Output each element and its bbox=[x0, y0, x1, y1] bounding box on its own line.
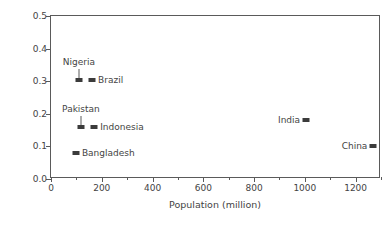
data-point-marker[interactable] bbox=[77, 125, 84, 129]
x-minor-tick-mark bbox=[330, 177, 331, 180]
x-tick-mark bbox=[102, 177, 103, 182]
x-minor-tick-mark bbox=[381, 177, 382, 180]
x-tick-label: 400 bbox=[144, 184, 161, 193]
data-point-label: Bangladesh bbox=[82, 148, 135, 157]
x-tick-mark bbox=[203, 177, 204, 182]
data-point-label: Brazil bbox=[98, 75, 123, 84]
x-tick-mark bbox=[153, 177, 154, 182]
x-tick-label: 0 bbox=[48, 184, 54, 193]
scatter-plot-figure: Farm land (ha/capita) Population (millio… bbox=[0, 0, 391, 226]
plot-area: 0.00.10.20.30.40.5 020040060080010001200… bbox=[50, 15, 380, 178]
x-tick-label: 1200 bbox=[344, 184, 367, 193]
x-minor-tick-mark bbox=[178, 177, 179, 180]
data-point-marker[interactable] bbox=[75, 78, 82, 82]
data-point-label: Pakistan bbox=[62, 105, 100, 114]
data-point-marker[interactable] bbox=[91, 125, 98, 129]
data-point-marker[interactable] bbox=[370, 144, 377, 148]
y-tick-label: 0.5 bbox=[33, 12, 47, 21]
x-tick-label: 600 bbox=[195, 184, 212, 193]
x-tick-mark bbox=[305, 177, 306, 182]
data-point-label: India bbox=[278, 116, 300, 125]
y-tick-label: 0.2 bbox=[33, 109, 47, 118]
x-tick-mark bbox=[356, 177, 357, 182]
y-tick-label: 0.1 bbox=[33, 142, 47, 151]
x-minor-tick-mark bbox=[279, 177, 280, 180]
x-minor-tick-mark bbox=[229, 177, 230, 180]
y-tick-label: 0.4 bbox=[33, 44, 47, 53]
data-point-label: Nigeria bbox=[63, 58, 95, 67]
x-tick-mark bbox=[51, 177, 52, 182]
data-point-marker[interactable] bbox=[303, 118, 310, 122]
x-tick-label: 1000 bbox=[293, 184, 316, 193]
x-tick-label: 800 bbox=[245, 184, 262, 193]
data-point-label: China bbox=[342, 142, 368, 151]
x-minor-tick-mark bbox=[127, 177, 128, 180]
x-axis-title: Population (million) bbox=[50, 200, 380, 210]
x-minor-tick-mark bbox=[76, 177, 77, 180]
y-tick-label: 0.0 bbox=[33, 175, 47, 184]
x-tick-mark bbox=[254, 177, 255, 182]
data-point-marker[interactable] bbox=[89, 78, 96, 82]
label-leader-line bbox=[78, 69, 79, 78]
y-tick-label: 0.3 bbox=[33, 77, 47, 86]
data-point-marker[interactable] bbox=[72, 151, 79, 155]
data-point-label: Indonesia bbox=[100, 122, 144, 131]
x-tick-label: 200 bbox=[93, 184, 110, 193]
label-leader-line bbox=[80, 116, 81, 125]
